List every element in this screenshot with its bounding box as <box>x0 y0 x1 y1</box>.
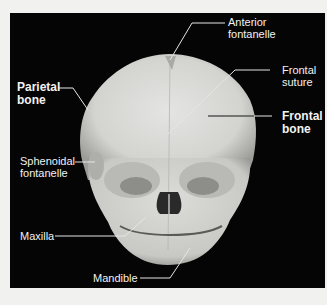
label-frontal-suture: Frontal suture <box>282 64 316 88</box>
label-maxilla: Maxilla <box>20 230 54 242</box>
label-parietal-bone: Parietal bone <box>17 81 60 107</box>
skull-illustration <box>0 0 327 305</box>
leader-parietal-bone <box>58 88 88 110</box>
label-sphenoidal-fontanelle: Sphenoidal fontanelle <box>20 155 75 179</box>
label-mandible: Mandible <box>93 272 138 284</box>
label-frontal-bone: Frontal bone <box>282 110 323 136</box>
label-anterior-fontanelle: Anterior fontanelle <box>228 16 276 40</box>
